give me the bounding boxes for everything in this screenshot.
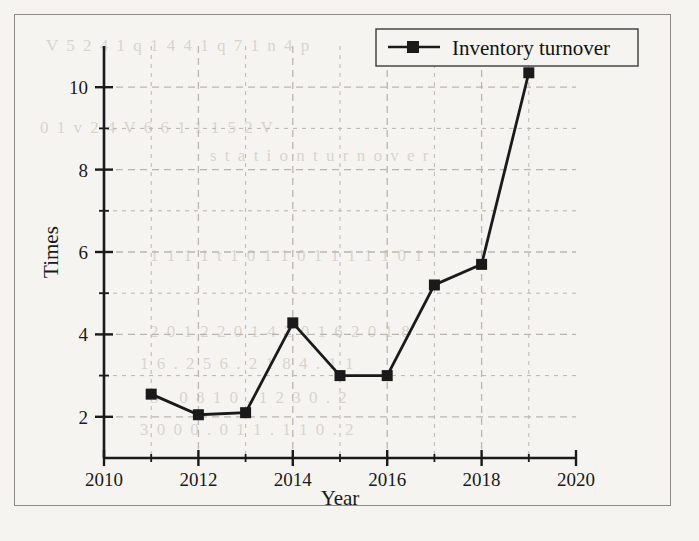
x-axis-title: Year — [321, 486, 360, 510]
y-axis-title: Times — [39, 226, 63, 278]
data-point-marker[interactable] — [335, 370, 346, 381]
x-tick-label: 2020 — [557, 469, 595, 490]
x-tick-label: 2012 — [179, 469, 217, 490]
x-tick-label: 2010 — [85, 469, 123, 490]
data-point-marker[interactable] — [240, 407, 251, 418]
legend-marker-square-icon — [407, 41, 419, 53]
data-point-marker[interactable] — [193, 409, 204, 420]
y-tick-label: 10 — [69, 77, 88, 98]
legend-label-inventory-turnover: Inventory turnover — [452, 36, 610, 60]
chart-legend[interactable]: Inventory turnover — [376, 29, 638, 66]
y-tick-label: 6 — [79, 242, 89, 263]
y-axis-tick-labels: 246810 — [69, 77, 89, 428]
y-tick-label: 8 — [79, 160, 89, 181]
x-tick-label: 2016 — [368, 469, 406, 490]
x-tick-label: 2014 — [274, 469, 313, 490]
y-tick-label: 2 — [79, 407, 89, 428]
data-point-marker[interactable] — [146, 389, 157, 400]
y-tick-label: 4 — [79, 324, 89, 345]
data-point-marker[interactable] — [476, 259, 487, 270]
data-point-marker[interactable] — [382, 370, 393, 381]
chart-plot-area: 246810 201020122014201620182020 Year Tim… — [0, 0, 699, 541]
data-point-marker[interactable] — [287, 317, 298, 328]
vertical-gridlines — [151, 46, 529, 458]
chart-figure: V 5 2 4 1 q 1 4 4 1 q 7 1 n 4 p 0 1 v 2 … — [0, 0, 699, 541]
data-point-marker[interactable] — [523, 67, 534, 78]
data-point-marker[interactable] — [429, 279, 440, 290]
x-tick-label: 2018 — [463, 469, 501, 490]
